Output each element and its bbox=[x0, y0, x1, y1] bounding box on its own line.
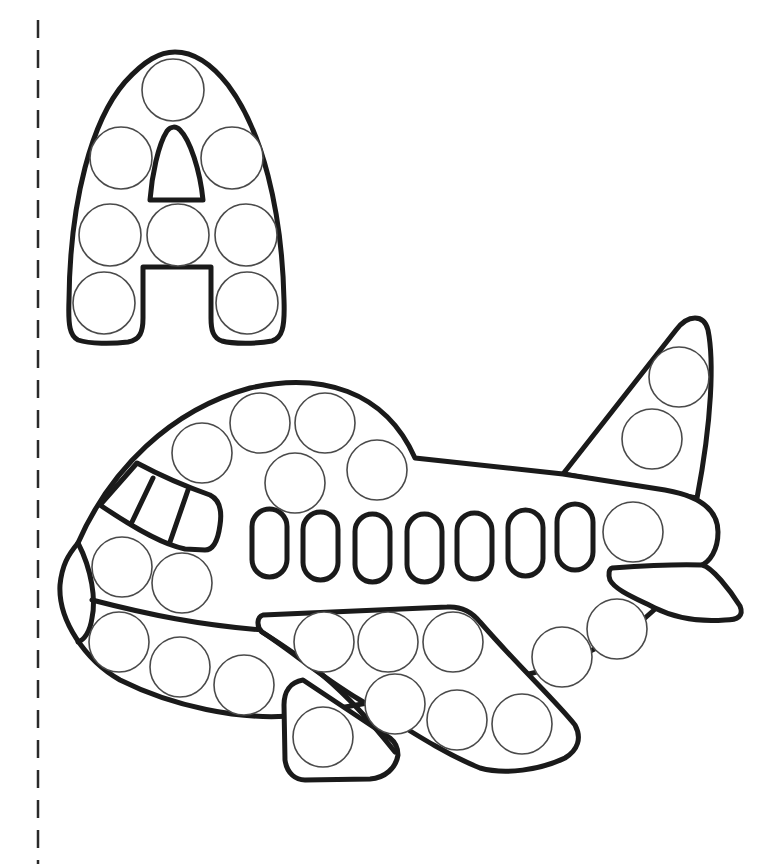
wing-dot[interactable] bbox=[492, 694, 552, 754]
belly-dot[interactable] bbox=[214, 655, 274, 715]
airplane bbox=[60, 318, 741, 780]
fuselage-dot[interactable] bbox=[603, 502, 663, 562]
letter-a-dot[interactable] bbox=[90, 127, 152, 189]
letter-a-dot[interactable] bbox=[142, 59, 204, 121]
wing-dot[interactable] bbox=[294, 612, 354, 672]
tail-fin bbox=[563, 318, 711, 498]
wing-dot[interactable] bbox=[358, 612, 418, 672]
letter-a-dot[interactable] bbox=[216, 272, 278, 334]
letter-a-dot[interactable] bbox=[201, 127, 263, 189]
letter-a-dot[interactable] bbox=[73, 272, 135, 334]
tail-fin-dot[interactable] bbox=[649, 347, 709, 407]
fuselage-dot[interactable] bbox=[152, 553, 212, 613]
fuselage-dot[interactable] bbox=[347, 440, 407, 500]
letter-a-dot[interactable] bbox=[147, 204, 209, 266]
wing-dot[interactable] bbox=[423, 612, 483, 672]
fuselage-dot[interactable] bbox=[230, 393, 290, 453]
coloring-sheet bbox=[0, 0, 776, 864]
engine-dot[interactable] bbox=[293, 707, 353, 767]
fuselage-dot[interactable] bbox=[172, 423, 232, 483]
belly-dot[interactable] bbox=[150, 637, 210, 697]
fuselage-dot[interactable] bbox=[265, 453, 325, 513]
fuselage-dot[interactable] bbox=[295, 393, 355, 453]
letter-a-dot[interactable] bbox=[215, 204, 277, 266]
tail-fin-dot[interactable] bbox=[622, 409, 682, 469]
fuselage-dot[interactable] bbox=[92, 537, 152, 597]
belly-dot[interactable] bbox=[587, 599, 647, 659]
belly-dot[interactable] bbox=[89, 612, 149, 672]
wing-dot[interactable] bbox=[365, 674, 425, 734]
belly-dot[interactable] bbox=[532, 627, 592, 687]
letter-a-dot[interactable] bbox=[79, 204, 141, 266]
letter-a bbox=[69, 52, 284, 343]
wing-dot[interactable] bbox=[427, 690, 487, 750]
